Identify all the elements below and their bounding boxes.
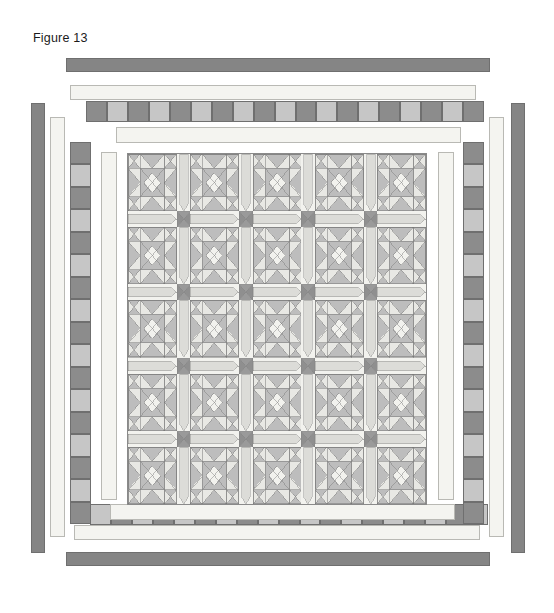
cornerstone bbox=[177, 211, 191, 227]
checker-square bbox=[70, 299, 91, 321]
horizontal-sashing bbox=[253, 431, 302, 447]
inner-border-right bbox=[438, 152, 454, 500]
star-block bbox=[190, 154, 239, 211]
star-block bbox=[190, 374, 239, 431]
checker-square bbox=[70, 232, 91, 254]
vertical-sashing bbox=[301, 154, 315, 211]
vertical-sashing bbox=[239, 300, 253, 357]
checker-square bbox=[463, 164, 484, 186]
checker-square bbox=[70, 502, 91, 524]
cornerstone bbox=[239, 284, 253, 300]
checker-square bbox=[463, 389, 484, 411]
cornerstone bbox=[301, 211, 315, 227]
vertical-sashing bbox=[239, 227, 253, 284]
horizontal-sashing bbox=[377, 431, 426, 447]
horizontal-sashing bbox=[128, 431, 177, 447]
horizontal-sashing bbox=[128, 211, 177, 227]
star-block bbox=[377, 154, 426, 211]
checker-square bbox=[70, 322, 91, 344]
checker-square bbox=[463, 367, 484, 389]
figure-root: Figure 13 bbox=[0, 0, 554, 613]
checker-square bbox=[70, 367, 91, 389]
horizontal-sashing bbox=[315, 431, 364, 447]
checker-square bbox=[463, 209, 484, 231]
checker-square bbox=[70, 164, 91, 186]
vertical-sashing bbox=[364, 227, 378, 284]
horizontal-sashing bbox=[128, 358, 177, 374]
vertical-sashing bbox=[364, 300, 378, 357]
inner-border-top bbox=[116, 127, 461, 143]
checker-square bbox=[70, 412, 91, 434]
horizontal-sashing bbox=[377, 358, 426, 374]
star-block bbox=[128, 447, 177, 504]
checker-square bbox=[107, 101, 128, 122]
cornerstone bbox=[364, 284, 378, 300]
checker-square bbox=[70, 479, 91, 501]
horizontal-sashing bbox=[128, 284, 177, 300]
checker-square bbox=[70, 254, 91, 276]
checker-square bbox=[86, 101, 107, 122]
horizontal-sashing bbox=[190, 358, 239, 374]
star-block bbox=[315, 300, 364, 357]
cornerstone bbox=[239, 431, 253, 447]
checker-square bbox=[463, 322, 484, 344]
checkerboard-border-left bbox=[70, 142, 91, 524]
star-block bbox=[253, 300, 302, 357]
star-block bbox=[377, 300, 426, 357]
star-block bbox=[253, 227, 302, 284]
vertical-sashing bbox=[177, 374, 191, 431]
checker-square bbox=[70, 344, 91, 366]
outer-border-left bbox=[31, 103, 45, 553]
star-block bbox=[315, 447, 364, 504]
checker-square bbox=[316, 101, 337, 122]
star-block bbox=[128, 154, 177, 211]
outer-border-bottom bbox=[66, 552, 490, 566]
second-border-top bbox=[70, 85, 476, 100]
checker-square bbox=[358, 101, 379, 122]
star-block bbox=[377, 447, 426, 504]
cornerstone bbox=[364, 431, 378, 447]
horizontal-sashing bbox=[190, 211, 239, 227]
horizontal-sashing bbox=[315, 358, 364, 374]
vertical-sashing bbox=[301, 374, 315, 431]
vertical-sashing bbox=[177, 227, 191, 284]
horizontal-sashing bbox=[315, 284, 364, 300]
figure-label: Figure 13 bbox=[33, 31, 88, 45]
checker-square bbox=[463, 254, 484, 276]
second-border-left bbox=[50, 117, 65, 537]
vertical-sashing bbox=[364, 154, 378, 211]
vertical-sashing bbox=[177, 154, 191, 211]
checker-square bbox=[70, 187, 91, 209]
star-block bbox=[315, 374, 364, 431]
outer-border-top bbox=[66, 58, 490, 72]
star-block bbox=[253, 374, 302, 431]
checker-square bbox=[463, 277, 484, 299]
horizontal-sashing bbox=[315, 211, 364, 227]
cornerstone bbox=[364, 211, 378, 227]
horizontal-sashing bbox=[377, 211, 426, 227]
checker-square bbox=[379, 101, 400, 122]
checker-square bbox=[70, 142, 91, 164]
checker-square bbox=[463, 344, 484, 366]
cornerstone bbox=[239, 358, 253, 374]
star-block bbox=[190, 227, 239, 284]
star-block bbox=[190, 300, 239, 357]
checker-square bbox=[128, 101, 149, 122]
checker-square bbox=[170, 101, 191, 122]
checker-square bbox=[421, 101, 442, 122]
cornerstone bbox=[177, 358, 191, 374]
horizontal-sashing bbox=[190, 284, 239, 300]
cornerstone bbox=[301, 284, 315, 300]
vertical-sashing bbox=[301, 447, 315, 504]
star-block bbox=[128, 300, 177, 357]
horizontal-sashing bbox=[190, 431, 239, 447]
horizontal-sashing bbox=[253, 358, 302, 374]
vertical-sashing bbox=[364, 447, 378, 504]
cornerstone bbox=[301, 358, 315, 374]
quilt-center bbox=[127, 153, 427, 505]
checker-square bbox=[254, 101, 275, 122]
outer-border-right bbox=[511, 103, 525, 553]
checker-square bbox=[463, 479, 484, 501]
checker-square bbox=[70, 389, 91, 411]
horizontal-sashing bbox=[253, 284, 302, 300]
